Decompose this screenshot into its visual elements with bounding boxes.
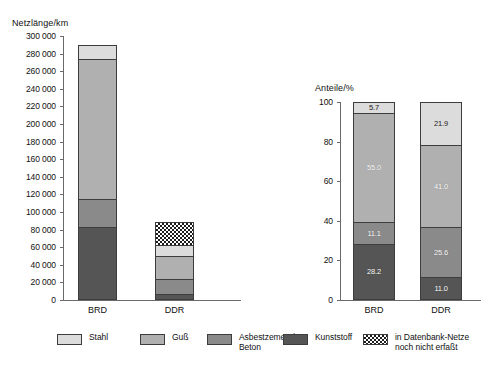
left-chart-tick bbox=[60, 142, 63, 143]
legend-item-nicht-erfasst: in Datenbank-Netze noch nicht erfaßt bbox=[363, 333, 469, 352]
left-chart-ticklabel: 220 000 bbox=[0, 101, 56, 111]
legend-swatch-asbestzement bbox=[207, 334, 232, 345]
legend-swatch-kunststoff bbox=[283, 334, 308, 345]
bar-segment-asbestzement: 25.6 bbox=[420, 227, 462, 278]
left-chart-ticklabel: 260 000 bbox=[0, 66, 56, 76]
left-chart-ticklabel: 80 000 bbox=[0, 225, 56, 235]
legend-label: Stahl bbox=[89, 333, 108, 343]
bar-brd-anteile: 5.7 55.0 11.1 28.2 bbox=[353, 102, 395, 300]
legend-item-kunststoff: Kunststoff bbox=[283, 333, 352, 345]
right-chart-ticklabel: 60 bbox=[300, 176, 333, 186]
bar-segment-kunststoff bbox=[155, 294, 194, 300]
left-chart-tick bbox=[60, 71, 63, 72]
legend-swatch-stahl bbox=[57, 334, 82, 345]
chart-anteile: Anteile/% 100 80 60 40 20 0 5.7 55.0 11.… bbox=[300, 0, 481, 320]
left-chart-ticklabel: 60 000 bbox=[0, 242, 56, 252]
left-chart-ticklabel: 180 000 bbox=[0, 137, 56, 147]
left-chart-tick bbox=[60, 159, 63, 160]
legend-label: Guß bbox=[172, 333, 188, 343]
category-label-brd: BRD bbox=[73, 305, 122, 315]
left-chart-tick bbox=[60, 265, 63, 266]
legend-swatch-guss bbox=[140, 334, 165, 345]
left-chart-ticklabel: 40 000 bbox=[0, 260, 56, 270]
left-chart-tick bbox=[60, 106, 63, 107]
right-chart-ticklabel: 80 bbox=[300, 137, 333, 147]
bar-segment-guss bbox=[155, 256, 194, 279]
right-chart-y-axis bbox=[340, 102, 341, 300]
right-chart-x-axis bbox=[340, 300, 481, 301]
bar-ddr-netzlaenge bbox=[155, 222, 194, 300]
bar-segment-stahl bbox=[78, 45, 117, 60]
bar-segment-guss bbox=[78, 59, 117, 199]
chart-netzlaenge: Netzlänge/km 300 000 280 000 260 000 240… bbox=[0, 0, 300, 320]
left-chart-axis-title: Netzlänge/km bbox=[12, 18, 68, 28]
bar-brd-netzlaenge bbox=[78, 45, 117, 300]
category-label-ddr: DDR bbox=[150, 305, 199, 315]
bar-segment-asbestzement: 11.1 bbox=[353, 222, 395, 244]
segment-value-label: 21.9 bbox=[434, 120, 448, 128]
right-chart-ticklabel: 20 bbox=[300, 255, 333, 265]
category-label-ddr: DDR bbox=[417, 305, 465, 315]
left-chart-tick bbox=[60, 300, 63, 301]
left-chart-ticklabel: 140 000 bbox=[0, 172, 56, 182]
left-chart-ticklabel: 200 000 bbox=[0, 119, 56, 129]
bar-segment-kunststoff bbox=[78, 227, 117, 300]
left-chart-ticklabel: 240 000 bbox=[0, 84, 56, 94]
left-chart-tick bbox=[60, 89, 63, 90]
left-chart-tick bbox=[60, 194, 63, 195]
legend-item-asbestzement: Asbestzement/ Beton bbox=[207, 333, 295, 352]
right-chart-tick bbox=[337, 142, 340, 143]
legend-swatch-nicht-erfasst bbox=[363, 334, 388, 345]
segment-value-label: 28.2 bbox=[367, 268, 381, 276]
legend-item-guss: Guß bbox=[140, 333, 188, 345]
left-chart-ticklabel: 20 000 bbox=[0, 277, 56, 287]
legend-label: Kunststoff bbox=[315, 333, 352, 343]
right-chart-ticklabel: 40 bbox=[300, 216, 333, 226]
category-label-brd: BRD bbox=[350, 305, 398, 315]
bar-segment-nicht-erfasst bbox=[155, 222, 194, 245]
left-chart-x-axis bbox=[63, 300, 241, 301]
segment-value-label: 5.7 bbox=[369, 104, 379, 112]
left-chart-tick bbox=[60, 230, 63, 231]
right-chart-tick bbox=[337, 221, 340, 222]
left-chart-ticklabel: 300 000 bbox=[0, 31, 56, 41]
left-chart-ticklabel: 120 000 bbox=[0, 189, 56, 199]
left-chart-tick bbox=[60, 54, 63, 55]
left-chart-ticklabel: 160 000 bbox=[0, 154, 56, 164]
segment-value-label: 11.1 bbox=[367, 230, 380, 238]
left-chart-tick bbox=[60, 124, 63, 125]
bar-ddr-anteile: 21.9 41.0 25.6 11.0 bbox=[420, 102, 462, 300]
left-chart-tick bbox=[60, 177, 63, 178]
left-chart-tick bbox=[60, 282, 63, 283]
right-chart-tick bbox=[337, 260, 340, 261]
bar-segment-stahl bbox=[155, 245, 194, 257]
left-chart-ticklabel: 100 000 bbox=[0, 207, 56, 217]
legend-label: in Datenbank-Netze noch nicht erfaßt bbox=[395, 333, 469, 352]
bar-segment-guss: 41.0 bbox=[420, 145, 462, 226]
right-chart-tick bbox=[337, 181, 340, 182]
segment-value-label: 41.0 bbox=[434, 183, 448, 191]
right-chart-tick bbox=[337, 300, 340, 301]
right-chart-ticklabel: 0 bbox=[300, 295, 333, 305]
left-chart-tick bbox=[60, 36, 63, 37]
segment-value-label: 11.0 bbox=[434, 285, 447, 293]
left-chart-ticklabel: 280 000 bbox=[0, 49, 56, 59]
segment-value-label: 25.6 bbox=[434, 249, 448, 257]
bar-segment-guss: 55.0 bbox=[353, 113, 395, 222]
bar-segment-stahl: 5.7 bbox=[353, 102, 395, 113]
left-chart-tick bbox=[60, 247, 63, 248]
bar-segment-kunststoff: 28.2 bbox=[353, 244, 395, 300]
segment-value-label: 55.0 bbox=[367, 164, 381, 172]
chart-legend: Stahl Guß Asbestzement/ Beton Kunststoff… bbox=[0, 326, 481, 362]
bar-segment-kunststoff: 11.0 bbox=[420, 277, 462, 300]
right-chart-axis-title: Anteile/% bbox=[315, 83, 354, 93]
bar-segment-asbestzement bbox=[78, 199, 117, 228]
right-chart-ticklabel: 100 bbox=[300, 97, 333, 107]
left-chart-ticklabel: 0 bbox=[0, 295, 56, 305]
left-chart-y-axis bbox=[63, 36, 64, 300]
left-chart-tick bbox=[60, 212, 63, 213]
bar-segment-stahl: 21.9 bbox=[420, 102, 462, 145]
bar-segment-asbestzement bbox=[155, 279, 194, 294]
right-chart-tick bbox=[337, 102, 340, 103]
legend-item-stahl: Stahl bbox=[57, 333, 108, 345]
